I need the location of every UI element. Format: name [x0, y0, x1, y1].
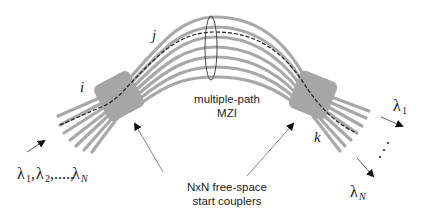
coupler-label-line2: start couplers [192, 195, 261, 207]
output-ellipsis [379, 142, 389, 158]
svg-text:λ: λ [36, 165, 44, 182]
svg-text:N: N [80, 173, 89, 184]
pointer-left-coupler [135, 124, 163, 172]
input-wavelengths-label: λ 1 , λ 2 ,...., λ N [17, 165, 89, 184]
coupler-label-line1: NxN free-space [187, 181, 267, 193]
label-i: i [80, 79, 84, 95]
mzi-label-line2: MZI [217, 107, 237, 119]
mzi-label-line1: multiple-path [194, 93, 260, 105]
output-arrow-lambda-1 [381, 117, 402, 126]
svg-text:1: 1 [402, 105, 407, 116]
svg-text:λ: λ [393, 97, 401, 114]
output-lambda-n-label: λ N [350, 183, 367, 202]
label-j: j [150, 27, 156, 43]
output-arrow-lambda-n [357, 158, 373, 176]
svg-text:N: N [358, 191, 367, 202]
svg-text:λ: λ [72, 165, 80, 182]
pointer-right-coupler [247, 124, 293, 176]
svg-text:λ: λ [350, 183, 358, 200]
output-lambda-1-label: λ 1 [393, 97, 407, 116]
mzi-diagram: i j k multiple-path MZI NxN free-space s… [0, 0, 427, 219]
svg-text:,....,: ,...., [50, 165, 74, 182]
svg-text:λ: λ [17, 165, 25, 182]
svg-text:,: , [31, 165, 35, 182]
label-k: k [314, 129, 321, 145]
input-arrow [27, 141, 44, 152]
